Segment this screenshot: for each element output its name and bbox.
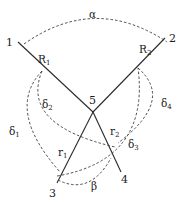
segment-R2 (93, 38, 165, 112)
arc-delta4 (118, 68, 153, 143)
point-label-1: 1 (6, 36, 13, 49)
arc-delta1 (27, 71, 60, 172)
linkage-diagram: 1 2 3 4 5 R1 R2 r1 r2 α β δ1 δ2 δ3 δ4 (0, 0, 186, 206)
label-r1: r1 (58, 146, 68, 160)
label-R2: R2 (139, 43, 151, 57)
point-label-5: 5 (89, 94, 96, 107)
label-delta1: δ1 (9, 125, 20, 139)
label-delta4: δ4 (161, 97, 172, 111)
label-delta3: δ3 (128, 138, 139, 152)
label-alpha: α (89, 8, 96, 20)
point-label-4: 4 (121, 173, 128, 186)
label-delta2: δ2 (42, 98, 53, 112)
point-label-3: 3 (49, 187, 56, 200)
label-R1: R1 (38, 53, 50, 67)
label-r2: r2 (110, 125, 120, 139)
label-beta: β (91, 180, 97, 192)
segment-R1 (18, 42, 93, 112)
arc-beta (58, 158, 111, 185)
arc-alpha (24, 18, 167, 44)
point-label-2: 2 (169, 32, 176, 45)
